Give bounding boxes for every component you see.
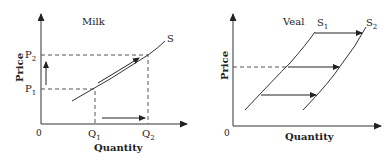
milk-panel: Milk 0 Price Quantity P2 P1 Q1 Q2 S (14, 14, 187, 153)
veal-origin: 0 (224, 128, 230, 138)
milk-title: Milk (82, 16, 106, 27)
veal-s2-label: S2 (366, 17, 377, 31)
veal-panel: Veal 0 Price Quantity S1 S2 (219, 14, 381, 142)
veal-supply-curve-s1 (245, 32, 315, 110)
milk-supply-label: S (167, 33, 174, 44)
veal-title: Veal (282, 16, 304, 27)
veal-supply-curve-s2 (303, 27, 366, 110)
veal-x-axis-label: Quantity (285, 131, 335, 142)
milk-p2-label: P2 (25, 49, 36, 63)
milk-x-axis-label: Quantity (94, 142, 144, 153)
supply-diagrams: Milk 0 Price Quantity P2 P1 Q1 Q2 S Veal… (0, 0, 392, 162)
milk-q1-label: Q1 (88, 128, 101, 142)
milk-movement-arrow (98, 58, 139, 83)
milk-p1-q1-guide (41, 89, 95, 124)
milk-p1-label: P1 (25, 83, 36, 97)
veal-y-axis-label: Price (219, 51, 230, 80)
milk-y-axis-label: Price (14, 53, 25, 82)
milk-q2-label: Q2 (142, 128, 155, 142)
milk-origin: 0 (36, 128, 42, 138)
veal-s1-label: S1 (317, 17, 328, 31)
